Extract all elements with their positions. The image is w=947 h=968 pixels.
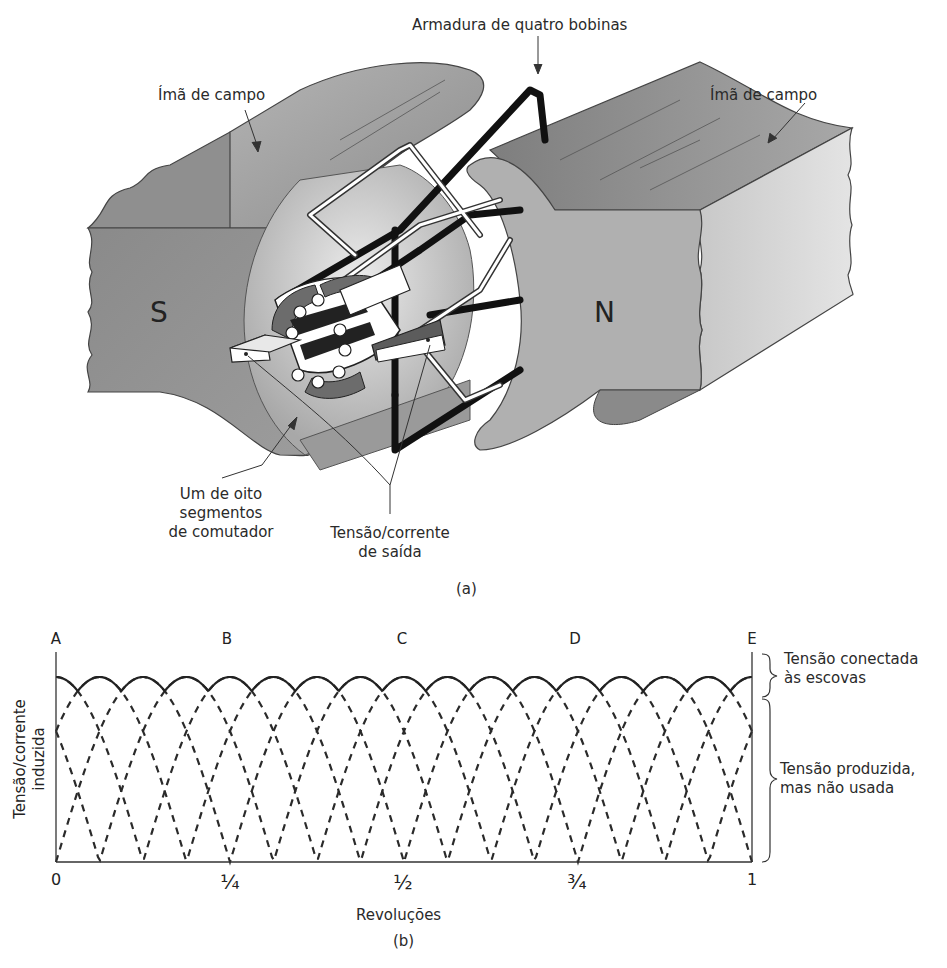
point-label-e: E — [747, 630, 756, 648]
voltage-chart — [0, 0, 947, 968]
coil-voltage-curve — [56, 677, 752, 860]
point-label-b: B — [222, 630, 232, 648]
x-tick-1: 1 — [747, 870, 757, 889]
coil-voltage-curve — [56, 677, 752, 859]
caption-b: (b) — [393, 932, 414, 951]
x-axis-label: Revoluções — [356, 906, 441, 925]
y-axis-label: Tensão/corrente induzida — [11, 684, 49, 834]
brace-bottom — [762, 699, 777, 862]
x-tick-three-quarters: ¾ — [567, 870, 586, 894]
point-label-c: C — [397, 630, 407, 648]
unused-voltage-curves — [56, 677, 752, 862]
point-label-a: A — [51, 630, 61, 648]
x-tick-half: ½ — [393, 870, 412, 894]
coil-voltage-curve — [56, 677, 752, 862]
unused-voltage-annotation: Tensão produzida, mas não usada — [780, 760, 915, 798]
y-axis-label-line1: Tensão/corrente — [11, 684, 30, 834]
y-axis-label-line2: induzida — [30, 684, 49, 834]
unused-voltage-annotation-line2: mas não usada — [780, 779, 915, 798]
x-tick-0: 0 — [51, 870, 61, 889]
point-label-d: D — [569, 630, 581, 648]
unused-voltage-annotation-line1: Tensão produzida, — [780, 760, 915, 779]
brush-voltage-annotation-line2: às escovas — [784, 669, 919, 688]
brace-top — [762, 654, 777, 697]
brush-voltage-annotation-line1: Tensão conectada — [784, 650, 919, 669]
x-tick-quarter: ¼ — [220, 870, 239, 894]
brush-voltage-curve — [56, 677, 752, 691]
coil-voltage-curve — [56, 677, 752, 860]
brush-voltage-annotation: Tensão conectada às escovas — [784, 650, 919, 688]
